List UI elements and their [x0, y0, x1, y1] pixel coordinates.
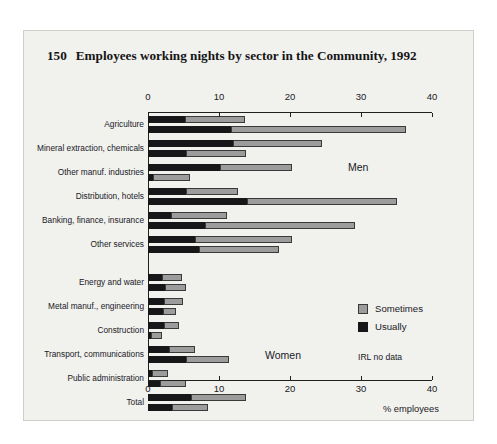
bar-segment-usually — [148, 346, 169, 353]
figure-page: 150Employees working nights by sector in… — [0, 0, 497, 444]
axis-tick-label: 40 — [420, 91, 444, 102]
bar-segment-usually — [148, 140, 233, 147]
axis-tick-label: 0 — [136, 383, 160, 394]
category-label: Distribution, hotels — [12, 192, 144, 202]
bar — [148, 356, 229, 363]
bar-segment-usually — [148, 322, 164, 329]
bar-segment-usually — [148, 236, 195, 243]
bar-segment-usually — [148, 150, 186, 157]
bar — [148, 116, 245, 123]
bar-segment-usually — [148, 188, 186, 195]
bar-segment-sometimes — [233, 140, 322, 147]
bar-segment-usually — [148, 212, 171, 219]
bar-segment-sometimes — [164, 298, 182, 305]
bar-segment-sometimes — [195, 236, 292, 243]
bar — [148, 274, 182, 281]
axis-tick — [361, 376, 362, 380]
bar-segment-sometimes — [153, 174, 190, 181]
axis-tick — [432, 113, 433, 117]
bar-segment-usually — [148, 284, 165, 291]
axis-tick-label: 20 — [278, 91, 302, 102]
bar — [148, 246, 279, 253]
category-label: Total — [12, 398, 144, 408]
category-label: Public administration — [12, 374, 144, 384]
legend-label-usually: Usually — [375, 321, 406, 332]
axis-tick — [361, 113, 362, 117]
bar-segment-usually — [148, 222, 205, 229]
bar-segment-usually — [148, 274, 162, 281]
bar-segment-sometimes — [191, 394, 246, 401]
axis-tick — [219, 376, 220, 380]
group-label-men: Men — [348, 161, 368, 173]
legend-item-sometimes: Sometimes — [358, 303, 468, 314]
axis-tick — [148, 113, 149, 117]
category-label: Other manuf. industries — [12, 168, 144, 178]
bar-segment-sometimes — [231, 126, 406, 133]
category-label: Other services — [12, 240, 144, 250]
bar — [148, 394, 246, 401]
bar-segment-sometimes — [247, 198, 398, 205]
bar-segment-sometimes — [152, 370, 168, 377]
bar-segment-sometimes — [199, 246, 279, 253]
bar — [148, 140, 322, 147]
axis-tick — [219, 113, 220, 117]
bar-segment-sometimes — [186, 150, 246, 157]
legend-swatch-usually-icon — [358, 322, 368, 332]
bar — [148, 322, 179, 329]
bar — [148, 298, 183, 305]
bar-segment-sometimes — [163, 308, 176, 315]
bar — [148, 198, 397, 205]
axis-tick — [148, 376, 149, 380]
bar-segment-sometimes — [162, 274, 182, 281]
no-data-note: IRL no data — [358, 352, 402, 362]
x-axis-label: % employees — [383, 404, 439, 414]
category-label: Construction — [12, 326, 144, 336]
legend-swatch-sometimes-icon — [358, 304, 368, 314]
legend: Sometimes Usually — [358, 303, 468, 339]
group-label-women: Women — [265, 349, 301, 361]
category-label: Energy and water — [12, 278, 144, 288]
axis-tick-label: 10 — [207, 91, 231, 102]
axis-tick-label: 0 — [136, 91, 160, 102]
category-label: Agriculture — [12, 120, 144, 130]
bar-segment-usually — [148, 298, 164, 305]
axis-tick — [290, 376, 291, 380]
bar — [148, 236, 292, 243]
bar-segment-sometimes — [169, 346, 195, 353]
bar-segment-sometimes — [165, 284, 186, 291]
category-label: Banking, finance, insurance — [12, 216, 144, 226]
bar-segment-sometimes — [185, 116, 245, 123]
bar-segment-usually — [148, 394, 191, 401]
axis-tick-label: 30 — [349, 91, 373, 102]
bar — [148, 332, 162, 339]
bar-segment-sometimes — [186, 188, 238, 195]
bar — [148, 188, 238, 195]
category-labels: AgricultureMineral extraction, chemicals… — [10, 0, 144, 444]
bar — [148, 308, 176, 315]
bar-segment-sometimes — [171, 212, 226, 219]
bar-segment-usually — [148, 246, 199, 253]
bar-segment-usually — [148, 198, 247, 205]
bar — [148, 126, 406, 133]
category-label: Transport, communications — [12, 350, 144, 360]
bar-segment-sometimes — [205, 222, 356, 229]
bar-segment-sometimes — [172, 404, 208, 411]
bar — [148, 284, 186, 291]
axis-tick-label: 40 — [420, 383, 444, 394]
bar-segment-sometimes — [220, 164, 292, 171]
axis-tick-label: 20 — [278, 383, 302, 394]
bar-segment-usually — [148, 308, 163, 315]
category-label: Metal manuf., engineering — [12, 302, 144, 312]
bar — [148, 404, 208, 411]
bar-segment-sometimes — [151, 332, 162, 339]
axis-tick-label: 10 — [207, 383, 231, 394]
bar-segment-usually — [148, 126, 231, 133]
axis-tick-label: 30 — [349, 383, 373, 394]
bar — [148, 212, 227, 219]
bar-segment-usually — [148, 116, 185, 123]
category-label: Mineral extraction, chemicals — [12, 144, 144, 154]
axis-line — [148, 380, 432, 381]
bar — [148, 370, 168, 377]
legend-label-sometimes: Sometimes — [375, 303, 423, 314]
bar-segment-usually — [148, 356, 186, 363]
